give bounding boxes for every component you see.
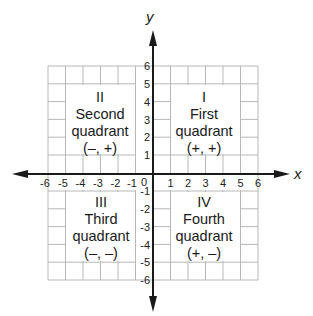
- svg-text:5: 5: [237, 177, 243, 189]
- svg-text:3: 3: [202, 177, 208, 189]
- y-axis-up-arrow-icon: [149, 30, 157, 46]
- svg-text:-6: -6: [40, 177, 50, 189]
- svg-text:3: 3: [144, 114, 150, 126]
- svg-text:-4: -4: [76, 177, 86, 189]
- x-axis-label: x: [293, 165, 302, 182]
- svg-text:quadrant: quadrant: [72, 228, 129, 244]
- svg-text:-2: -2: [111, 177, 121, 189]
- svg-text:4: 4: [144, 96, 150, 108]
- svg-text:-4: -4: [140, 239, 150, 251]
- svg-text:5: 5: [144, 78, 150, 90]
- x-axis-right-arrow-icon: [274, 170, 290, 178]
- svg-text:-3: -3: [140, 221, 150, 233]
- svg-text:(–, –): (–, –): [84, 245, 118, 261]
- svg-text:Third: Third: [84, 211, 117, 227]
- svg-text:First: First: [190, 106, 218, 122]
- svg-text:2: 2: [144, 131, 150, 143]
- y-axis-label: y: [145, 8, 155, 25]
- svg-text:-5: -5: [140, 256, 150, 268]
- svg-text:quadrant: quadrant: [71, 123, 128, 139]
- svg-text:1: 1: [167, 177, 173, 189]
- svg-text:-2: -2: [140, 203, 150, 215]
- svg-text:1: 1: [144, 149, 150, 161]
- svg-text:II: II: [96, 89, 104, 105]
- coordinate-plane: x y 0 -6 -5 -4 -3 -2 -1 1 2 3 4 5 6 6 5 …: [0, 0, 313, 316]
- svg-text:(+, –): (+, –): [187, 245, 221, 261]
- svg-text:(+, +): (+, +): [187, 140, 222, 156]
- svg-text:III: III: [95, 194, 107, 210]
- y-axis-down-arrow-icon: [149, 296, 157, 312]
- svg-text:(–, +): (–, +): [83, 140, 117, 156]
- svg-text:6: 6: [255, 177, 261, 189]
- svg-text:I: I: [202, 89, 206, 105]
- svg-text:IV: IV: [197, 194, 211, 210]
- svg-text:-1: -1: [127, 177, 137, 189]
- x-axis-left-arrow-icon: [12, 170, 28, 178]
- svg-text:-6: -6: [140, 274, 150, 286]
- svg-text:-5: -5: [58, 177, 68, 189]
- svg-text:quadrant: quadrant: [175, 228, 232, 244]
- svg-text:Fourth: Fourth: [183, 211, 225, 227]
- svg-text:Second: Second: [75, 106, 124, 122]
- svg-text:quadrant: quadrant: [175, 123, 232, 139]
- svg-text:6: 6: [144, 60, 150, 72]
- svg-text:4: 4: [220, 177, 226, 189]
- svg-text:-3: -3: [93, 177, 103, 189]
- svg-text:-1: -1: [140, 185, 150, 197]
- svg-text:2: 2: [185, 177, 191, 189]
